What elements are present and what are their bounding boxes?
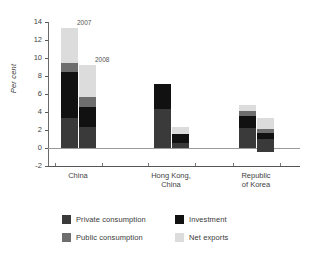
y-tick-mark (45, 58, 48, 59)
bar-china-2008 (79, 65, 96, 148)
y-tick-label: 8 (20, 72, 42, 80)
bar-segment (239, 105, 256, 111)
y-tick-label: 0 (20, 144, 42, 152)
bar-republic-of-korea-2007 (239, 105, 256, 148)
bar-segment (61, 63, 78, 72)
legend-item[interactable]: Private consumption (62, 215, 146, 224)
bar-segment (172, 134, 189, 143)
bar-segment (154, 109, 171, 148)
y-tick-mark (45, 94, 48, 95)
bar-segment (257, 118, 274, 129)
x-axis-label: Republic of Korea (216, 171, 296, 189)
y-axis-label: Per cent (9, 44, 18, 114)
y-tick-label: 12 (20, 36, 42, 44)
y-tick-label: 6 (20, 90, 42, 98)
legend-label: Net exports (189, 233, 228, 242)
legend-swatch-icon (62, 233, 71, 242)
bar-segment (257, 139, 274, 148)
y-axis-line (48, 22, 49, 166)
bar-segment (79, 97, 96, 108)
legend-label: Investment (189, 215, 227, 224)
x-tick-mark (102, 163, 103, 166)
bar-segment-negative (257, 148, 274, 152)
x-axis-line (48, 166, 300, 167)
x-axis-label: China (38, 171, 118, 180)
x-tick-mark (233, 163, 234, 166)
bar-segment (61, 72, 78, 118)
bar-segment (172, 143, 189, 148)
y-tick-label: 2 (20, 126, 42, 134)
legend-label: Public consumption (76, 233, 143, 242)
y-tick-mark (45, 76, 48, 77)
bar-segment (257, 129, 274, 133)
y-tick-label: -2 (20, 162, 42, 170)
bar-segment (61, 118, 78, 148)
legend-item[interactable]: Investment (175, 215, 227, 224)
annotation-year-2007: 2007 (77, 19, 91, 26)
bar-republic-of-korea-2008 (257, 118, 274, 151)
legend-label: Private consumption (76, 215, 146, 224)
bar-segment (79, 65, 96, 97)
bar-segment (79, 107, 96, 127)
bar-segment (239, 128, 256, 148)
chart-container: Per cent 14121086420-220072008ChinaHong … (0, 0, 311, 262)
bar-segment (61, 28, 78, 63)
legend-item[interactable]: Net exports (175, 233, 228, 242)
x-tick-mark (55, 163, 56, 166)
legend-swatch-icon (175, 215, 184, 224)
y-tick-label: 4 (20, 108, 42, 116)
x-tick-mark (280, 163, 281, 166)
y-tick-label: 14 (20, 18, 42, 26)
bar-segment (79, 127, 96, 148)
bar-segment (154, 84, 171, 109)
y-tick-mark (45, 22, 48, 23)
bar-hong-kong-china-2008 (172, 127, 189, 148)
legend-swatch-icon (175, 233, 184, 242)
bar-segment (172, 127, 189, 134)
y-tick-label: 10 (20, 54, 42, 62)
x-tick-mark (148, 163, 149, 166)
bar-segment (257, 133, 274, 139)
bar-segment (239, 111, 256, 116)
bar-hong-kong-china-2007 (154, 84, 171, 148)
legend-item[interactable]: Public consumption (62, 233, 143, 242)
bar-segment (239, 116, 256, 128)
y-tick-mark (45, 40, 48, 41)
legend-swatch-icon (62, 215, 71, 224)
y-tick-mark (45, 130, 48, 131)
x-tick-mark (195, 163, 196, 166)
annotation-year-2008: 2008 (95, 56, 109, 63)
y-tick-mark (45, 112, 48, 113)
bar-china-2007 (61, 28, 78, 148)
x-axis-label: Hong Kong, China (131, 171, 211, 189)
